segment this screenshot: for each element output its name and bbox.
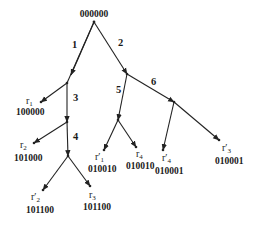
leaf-r4-label: r4	[136, 148, 143, 161]
edge-1-label: 1	[72, 39, 77, 50]
root-code: 000000	[80, 9, 109, 19]
leaf-r3-code: 101100	[83, 202, 111, 212]
edge-e-r1prime	[104, 120, 118, 150]
edge-4	[67, 122, 68, 156]
edge-4-label: 4	[73, 131, 79, 142]
leaf-r1prime-label: r′1	[95, 151, 105, 164]
edge-f-r4prime	[163, 102, 174, 150]
edge-b-r2	[34, 122, 67, 143]
leaf-r2-node	[33, 142, 36, 145]
leaf-r1prime-code: 010010	[88, 164, 117, 174]
leaf-r2prime-node	[42, 189, 45, 192]
leaf-r1-node	[40, 101, 43, 104]
leaf-r2-label: r2	[20, 139, 27, 152]
leaf-r3-label: r3	[89, 189, 96, 202]
edge-f-r3prime	[174, 102, 219, 140]
edge-5	[118, 74, 127, 120]
leaf-r3prime-node	[218, 139, 221, 142]
leaf-r2-code: 101000	[14, 153, 43, 163]
tree-diagram: 000000 1 r1 100000 3 r2 101000 4 r′2 101…	[0, 0, 260, 229]
leaf-r1-code: 100000	[16, 107, 45, 117]
edge-c-r3	[68, 156, 90, 186]
leaf-r4-code: 010010	[126, 161, 155, 171]
edge-2-label: 2	[118, 37, 123, 48]
leaf-r3-node	[89, 185, 92, 188]
edge-a-r1	[41, 83, 67, 102]
edge-e-r4	[118, 120, 136, 147]
leaf-r1prime-node	[103, 149, 106, 152]
leaf-r4prime-code: 010001	[155, 166, 184, 176]
edge-3-label: 3	[73, 92, 78, 103]
edge-5-label: 5	[116, 84, 121, 95]
leaf-r4prime-node	[162, 149, 165, 152]
leaf-r4prime-label: r′4	[162, 152, 172, 165]
leaf-r2prime-code: 101100	[26, 205, 54, 215]
edge-2	[94, 22, 127, 74]
edge-c-r2prime	[43, 156, 68, 190]
leaf-r2prime-label: r′2	[31, 191, 41, 204]
leaf-r3prime-code: 010001	[215, 156, 244, 166]
edge-6-label: 6	[151, 76, 156, 87]
leaf-r3prime-label: r′3	[222, 142, 232, 155]
